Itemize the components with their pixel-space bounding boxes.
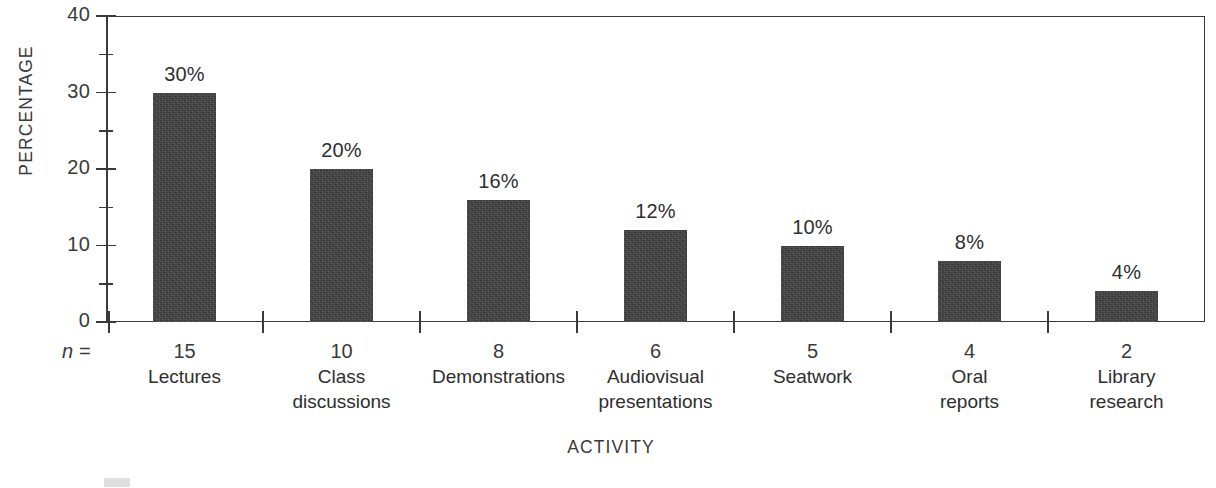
category-label: Lectures — [106, 364, 263, 389]
n-value: 8 — [420, 338, 577, 364]
category-label-line2: discussions — [263, 389, 420, 414]
bar-chart: 010203040 PERCENTAGE 30%15Lectures20%10C… — [0, 0, 1216, 488]
x-tick — [890, 311, 892, 333]
bar-value-label: 8% — [955, 231, 984, 254]
category-label: Oral — [891, 364, 1048, 389]
bar-value-label: 16% — [478, 170, 519, 193]
n-value: 5 — [734, 338, 891, 364]
x-tick — [262, 311, 264, 333]
x-tick — [733, 311, 735, 333]
bar — [1095, 291, 1158, 322]
category-label: Library — [1048, 364, 1205, 389]
bars-layer: 30%15Lectures20%10Classdiscussions16%8De… — [0, 0, 1216, 488]
n-value: 4 — [891, 338, 1048, 364]
bar — [781, 246, 844, 323]
bar-fill — [938, 261, 1001, 322]
x-axis-title: ACTIVITY — [0, 437, 1216, 458]
bar — [310, 169, 373, 322]
bar-fill — [310, 169, 373, 322]
n-equals-label: n = — [62, 340, 122, 363]
x-axis-label-group: 15Lectures — [106, 338, 263, 389]
bar-value-label: 30% — [164, 63, 205, 86]
x-axis-label-group: 6Audiovisualpresentations — [577, 338, 734, 414]
bar — [624, 230, 687, 322]
x-axis-label-group: 2Libraryresearch — [1048, 338, 1205, 414]
x-axis-label-group: 10Classdiscussions — [263, 338, 420, 414]
caption-swatch — [104, 478, 130, 487]
bar-fill — [1095, 291, 1158, 322]
category-label: Class — [263, 364, 420, 389]
cut-off-caption — [0, 476, 1216, 488]
bar — [153, 93, 216, 323]
bar-value-label: 4% — [1112, 261, 1141, 284]
bar — [938, 261, 1001, 322]
category-label-line2: research — [1048, 389, 1205, 414]
category-label: Seatwork — [734, 364, 891, 389]
x-axis-label-group: 8Demonstrations — [420, 338, 577, 389]
n-value: 10 — [263, 338, 420, 364]
n-value: 2 — [1048, 338, 1205, 364]
bar-fill — [624, 230, 687, 322]
bar-fill — [153, 93, 216, 323]
category-label: Audiovisual — [577, 364, 734, 389]
category-label-line2: reports — [891, 389, 1048, 414]
bar-value-label: 20% — [321, 139, 362, 162]
bar — [467, 200, 530, 322]
x-axis-label-group: 5Seatwork — [734, 338, 891, 389]
bar-value-label: 12% — [635, 200, 676, 223]
x-axis-label-group: 4Oralreports — [891, 338, 1048, 414]
x-tick — [1047, 311, 1049, 333]
category-label-line2: presentations — [577, 389, 734, 414]
bar-fill — [781, 246, 844, 323]
bar-fill — [467, 200, 530, 322]
x-tick — [576, 311, 578, 333]
x-tick-origin — [108, 311, 110, 333]
n-value: 6 — [577, 338, 734, 364]
category-label: Demonstrations — [420, 364, 577, 389]
x-axis-title-text: ACTIVITY — [567, 437, 655, 457]
bar-value-label: 10% — [792, 216, 833, 239]
n-value: 15 — [106, 338, 263, 364]
x-tick — [419, 311, 421, 333]
